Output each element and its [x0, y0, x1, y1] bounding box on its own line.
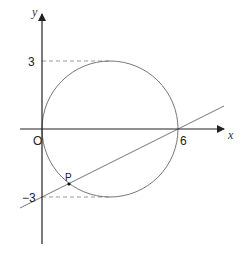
x-axis-label: x [227, 128, 234, 142]
tick-label-y-3: 3 [28, 55, 35, 69]
point-p-label: P [65, 172, 72, 183]
tick-label-y-neg3: −3 [22, 191, 36, 205]
diagram-canvas: y x O 3 −3 6 P [0, 0, 250, 258]
origin-label: O [33, 134, 42, 148]
tick-label-x-6: 6 [180, 134, 187, 148]
straight-line [20, 106, 224, 208]
y-axis-label: y [31, 5, 38, 19]
